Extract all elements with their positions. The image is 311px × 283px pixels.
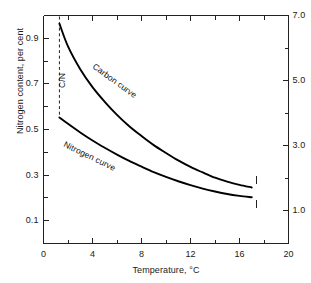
x-tick-label-8: 8: [139, 250, 144, 259]
x-tick-label-20: 20: [283, 250, 293, 259]
y-left-tick-label-0-5: 0.5: [26, 125, 39, 134]
chart-figure: 0 4 8 12 16 20 0.1 0.3 0.5 0.7 0.9 1.0 3…: [0, 0, 311, 283]
carbon-curve-path: [59, 24, 251, 188]
x-axis-ticks: [68, 16, 264, 244]
y-left-tick-label-0-3: 0.3: [26, 171, 39, 180]
y-right-tick-label-3-0: 3.0: [293, 141, 306, 150]
x-tick-label-4: 4: [90, 250, 95, 259]
y-left-tick-label-0-1: 0.1: [26, 216, 39, 225]
cn-ratio-label: C/N: [58, 73, 67, 88]
y-right-tick-label-7-0: 7.0: [293, 11, 306, 20]
y-left-axis-title: Nitrogen content, per cent: [16, 28, 25, 134]
x-tick-label-16: 16: [234, 250, 244, 259]
y-right-tick-label-1-0: 1.0: [293, 206, 306, 215]
chart-canvas: [0, 0, 311, 283]
x-axis-title: Temperature, °C: [132, 266, 199, 275]
y-right-tick-label-5-0: 5.0: [293, 76, 306, 85]
y-right-axis-ticks: [283, 48, 289, 211]
data-curves: [59, 24, 251, 198]
y-left-tick-label-0-9: 0.9: [26, 34, 39, 43]
y-left-tick-label-0-7: 0.7: [26, 79, 39, 88]
x-tick-label-0: 0: [41, 250, 46, 259]
plot-frame: [44, 16, 289, 244]
x-tick-label-12: 12: [185, 250, 195, 259]
y-left-axis-ticks: [44, 38, 50, 220]
